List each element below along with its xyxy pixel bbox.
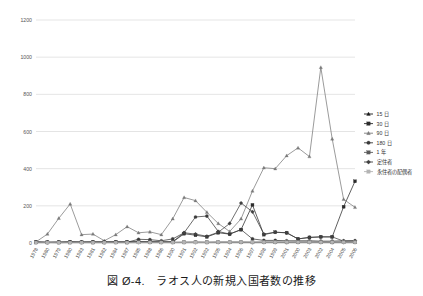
y-axis-ticks: 020040060080010001200 bbox=[20, 17, 32, 246]
x-axis-tick-label: 1998 bbox=[256, 246, 267, 259]
data-point bbox=[262, 241, 265, 244]
chart-area: 020040060080010001200 197819801979198019… bbox=[0, 0, 423, 270]
data-point bbox=[228, 241, 231, 244]
x-axis-tick-label: 1991 bbox=[176, 246, 187, 259]
data-point bbox=[308, 241, 311, 244]
line-chart: 020040060080010001200 197819801979198019… bbox=[0, 0, 423, 270]
x-axis-tick-label: 2004 bbox=[325, 246, 336, 259]
legend-label: 定住者 bbox=[377, 158, 392, 166]
series-3 bbox=[34, 214, 356, 244]
data-point bbox=[251, 203, 254, 206]
x-axis-tick-label: 1997 bbox=[245, 246, 256, 259]
data-point bbox=[285, 241, 288, 244]
legend-label: 1 年 bbox=[377, 148, 386, 156]
y-axis-tick-label: 1000 bbox=[20, 54, 32, 60]
data-point bbox=[114, 233, 117, 236]
legend-item-3[interactable]: 180 日 bbox=[364, 140, 392, 147]
data-point bbox=[183, 241, 186, 244]
data-point bbox=[342, 198, 345, 201]
x-axis-tick-label: 2006 bbox=[347, 246, 358, 259]
data-point bbox=[182, 196, 185, 199]
legend-label: 90 日 bbox=[377, 130, 389, 137]
data-point bbox=[148, 241, 151, 244]
data-point bbox=[319, 241, 322, 244]
x-axis-tick-label: 2001 bbox=[279, 246, 290, 259]
data-point bbox=[331, 137, 334, 140]
y-axis-tick-label: 1200 bbox=[20, 17, 32, 23]
y-axis-tick-label: 200 bbox=[23, 203, 32, 209]
x-axis-tick-label: 1992 bbox=[188, 246, 199, 259]
legend-label: 永住者の配偶者 bbox=[377, 168, 412, 176]
y-axis-tick-label: 0 bbox=[29, 240, 32, 246]
data-point bbox=[367, 141, 371, 145]
legend-label: 15 日 bbox=[377, 111, 389, 118]
x-axis-tick-label: 1980 bbox=[40, 246, 51, 259]
x-axis-tick-label: 1982 bbox=[97, 246, 108, 259]
data-point bbox=[126, 241, 129, 244]
legend-label: 180 日 bbox=[377, 140, 392, 147]
data-point bbox=[251, 241, 254, 244]
data-point bbox=[366, 160, 370, 164]
legend-item-5[interactable]: 定住者 bbox=[364, 158, 392, 166]
data-point bbox=[80, 241, 83, 244]
data-point bbox=[367, 122, 370, 125]
data-point bbox=[114, 241, 117, 244]
data-point bbox=[91, 241, 94, 244]
data-point bbox=[354, 241, 357, 244]
x-axis-tick-label: 1988 bbox=[142, 246, 153, 259]
legend-item-4[interactable]: 1 年 bbox=[364, 148, 386, 156]
data-point bbox=[240, 241, 243, 244]
data-point bbox=[285, 154, 288, 157]
data-point bbox=[194, 215, 197, 218]
x-axis-tick-label: 1978 bbox=[28, 246, 39, 259]
data-point bbox=[46, 241, 49, 244]
x-axis-tick-label: 2005 bbox=[336, 246, 347, 259]
data-point bbox=[228, 233, 231, 236]
x-axis-tick-label: 1999 bbox=[268, 246, 279, 259]
legend-item-6[interactable]: 永住者の配偶者 bbox=[364, 168, 412, 176]
x-axis-tick-label: 2000 bbox=[290, 246, 301, 259]
x-axis-tick-label: 1983 bbox=[74, 246, 85, 259]
figure-container: 020040060080010001200 197819801979198019… bbox=[0, 0, 423, 296]
chart-legend: 15 日30 日90 日180 日1 年定住者永住者の配偶者 bbox=[364, 111, 412, 176]
data-point bbox=[35, 241, 38, 244]
data-point bbox=[194, 241, 197, 244]
data-point bbox=[205, 214, 208, 217]
legend-item-2[interactable]: 90 日 bbox=[364, 130, 389, 137]
legend-item-1[interactable]: 30 日 bbox=[364, 121, 389, 128]
data-point bbox=[69, 202, 72, 205]
data-point bbox=[319, 66, 322, 69]
data-point bbox=[274, 241, 277, 244]
x-axis-tick-label: 1986 bbox=[154, 246, 165, 259]
legend-item-0[interactable]: 15 日 bbox=[364, 111, 389, 118]
data-point bbox=[239, 228, 242, 231]
x-axis-tick-label: 2003 bbox=[302, 246, 313, 259]
data-series-layer bbox=[34, 66, 357, 244]
data-point bbox=[296, 146, 299, 149]
x-axis-tick-label: 1987 bbox=[119, 246, 130, 259]
data-point bbox=[367, 170, 370, 173]
gridlines bbox=[36, 20, 355, 243]
data-point bbox=[251, 189, 254, 192]
data-point bbox=[354, 180, 357, 183]
x-axis-tick-label: 1979 bbox=[51, 246, 62, 259]
y-axis-tick-label: 600 bbox=[23, 129, 32, 135]
x-axis-ticks: 1978198019791980198319811982198419871985… bbox=[28, 243, 358, 259]
data-point bbox=[342, 205, 345, 208]
data-point bbox=[103, 241, 106, 244]
series-6 bbox=[35, 241, 357, 244]
data-point bbox=[367, 151, 370, 154]
data-point bbox=[297, 241, 300, 244]
legend-label: 30 日 bbox=[377, 121, 389, 128]
figure-caption: 図 Ø-4. ラオス人の新規入国者数の推移 bbox=[0, 272, 423, 288]
data-point bbox=[171, 217, 174, 220]
x-axis-tick-label: 1995 bbox=[211, 246, 222, 259]
data-point bbox=[251, 237, 254, 240]
x-axis-tick-label: 1985 bbox=[131, 246, 142, 259]
x-axis-tick-label: 1996 bbox=[233, 246, 244, 259]
data-point bbox=[57, 241, 60, 244]
x-axis-tick-label: 1980 bbox=[62, 246, 73, 259]
data-point bbox=[171, 241, 174, 244]
x-axis-tick-label: 1990 bbox=[165, 246, 176, 259]
data-point bbox=[69, 241, 72, 244]
